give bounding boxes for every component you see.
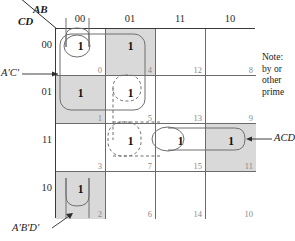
col-header-00: 00 [55,13,105,24]
cell-value-15: 1 [156,135,205,147]
cell-minterm-11: 11 [245,161,253,171]
kmap-cell-12[interactable]: 12 [156,29,206,76]
kmap-cell-2[interactable]: 12 [56,172,106,219]
row-header-01: 01 [28,86,52,97]
row-header-10: 10 [28,182,52,193]
kmap-cell-1[interactable]: 11 [56,76,106,124]
kmap-cell-13[interactable]: 13 [156,76,206,124]
row-header-00: 00 [28,39,52,50]
kmap-cell-5[interactable]: 15 [106,76,156,124]
kmap-cell-10[interactable]: 10 [206,172,256,219]
kmap-figure: AB CD 00 01 11 10 00 01 11 10 10 14 12 8… [0,0,295,241]
col-header-11: 11 [155,13,205,24]
cell-value-5: 1 [106,87,155,99]
cell-minterm-6: 6 [148,209,152,219]
kmap-grid: 10 14 12 8 11 15 13 9 3 17 115 111 12 6 … [55,28,255,218]
cell-value-4: 1 [106,40,155,52]
cell-value-7: 1 [106,135,155,147]
cell-minterm-1: 1 [98,113,102,123]
kmap-cell-4[interactable]: 14 [106,29,156,76]
cell-minterm-0: 0 [98,65,102,75]
side-note: Note: by or other prime [262,52,295,98]
kmap-cell-14[interactable]: 14 [156,172,206,219]
kmap-cell-8[interactable]: 8 [206,29,256,76]
note-line-4: prime [262,87,295,99]
term-label-a-c-prime: A'C' [1,67,19,78]
cell-minterm-9: 9 [249,113,253,123]
cell-minterm-12: 12 [194,65,203,75]
cell-minterm-2: 2 [98,209,102,219]
cell-minterm-14: 14 [194,209,203,219]
kmap-cell-9[interactable]: 9 [206,76,256,124]
cell-value-2: 1 [56,183,105,195]
ab-axis-label: AB [33,3,48,15]
cell-value-0: 1 [56,40,105,52]
cell-value-11: 1 [206,135,256,147]
row-header-11: 11 [28,134,52,145]
term-label-a-b-d-prime: A'B'D' [12,222,39,233]
cell-minterm-10: 10 [245,209,254,219]
col-header-01: 01 [105,13,155,24]
cell-minterm-13: 13 [194,113,203,123]
note-line-3: other [262,75,295,87]
col-header-10: 10 [205,13,255,24]
cell-minterm-7: 7 [148,161,152,171]
cd-axis-label: CD [18,15,33,27]
cell-minterm-8: 8 [249,65,253,75]
cell-minterm-15: 15 [194,161,203,171]
note-line-1: Note: [262,52,295,64]
note-line-2: by or [262,64,295,76]
kmap-cell-3[interactable]: 3 [56,124,106,172]
kmap-cell-15[interactable]: 115 [156,124,206,172]
cell-minterm-5: 5 [148,113,152,123]
kmap-cell-6[interactable]: 6 [106,172,156,219]
cell-value-1: 1 [56,87,105,99]
cell-minterm-3: 3 [98,161,102,171]
cell-minterm-4: 4 [148,65,152,75]
term-label-acd: ACD [274,132,295,143]
kmap-cell-0[interactable]: 10 [56,29,106,76]
kmap-cell-7[interactable]: 17 [106,124,156,172]
kmap-cell-11[interactable]: 111 [206,124,256,172]
